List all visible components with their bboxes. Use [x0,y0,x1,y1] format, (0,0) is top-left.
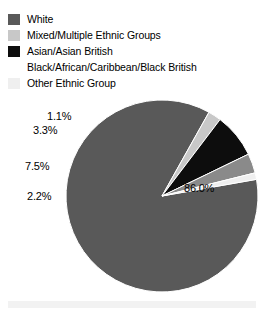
legend-label-black-african: Black/African/Caribbean/Black British [27,61,197,73]
legend-swatch-other [8,78,20,89]
legend-swatch-mixed [8,30,20,41]
legend-label-asian: Asian/Asian British [27,45,113,57]
slice-label-black-african: 3.3% [33,124,57,136]
legend-label-mixed: Mixed/Multiple Ethnic Groups [27,29,161,41]
legend-item-asian: Asian/Asian British [8,43,260,59]
slice-label-white: 86.0% [184,182,214,194]
legend-label-other: Other Ethnic Group [27,77,116,89]
slice-label-mixed: 2.2% [27,190,51,202]
pie-chart-figure: White Mixed/Multiple Ethnic Groups Asian… [0,0,264,312]
bottom-band-artifact [8,301,256,308]
legend-item-black-african: Black/African/Caribbean/Black British [8,59,260,75]
legend-item-mixed: Mixed/Multiple Ethnic Groups [8,27,260,43]
slice-label-other: 1.1% [47,110,71,122]
legend-label-white: White [27,13,53,25]
legend-swatch-white [8,14,20,25]
chart-legend: White Mixed/Multiple Ethnic Groups Asian… [8,11,260,91]
pie-slice-group [66,100,258,292]
legend-swatch-black-african [8,62,20,73]
legend-item-white: White [8,11,260,27]
slice-label-asian: 7.5% [25,160,49,172]
legend-swatch-asian [8,46,20,57]
pie-slice-white [66,100,258,292]
legend-item-other: Other Ethnic Group [8,75,260,91]
